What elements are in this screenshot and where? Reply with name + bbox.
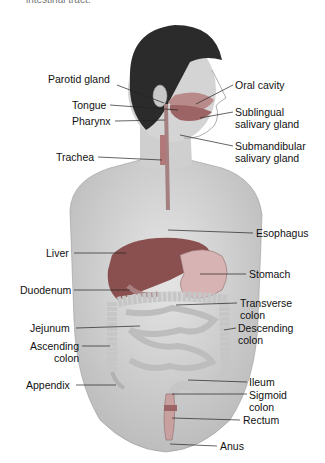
label-jejunum: Jejunum (30, 322, 70, 334)
label-sublingual: Sublingual (235, 106, 284, 118)
label-sigmoid-colon: Sigmoid (249, 389, 287, 401)
label-esophagus: Esophagus (256, 227, 309, 239)
label-appendix: Appendix (26, 379, 70, 391)
label-descending-colon: Descending (238, 322, 293, 334)
label-liver: Liver (46, 247, 69, 259)
label-sigmoid-colon-2: colon (249, 401, 274, 413)
label-stomach: Stomach (249, 268, 290, 280)
label-sublingual-2: salivary gland (235, 118, 299, 130)
label-ascending-colon-2: colon (54, 352, 79, 364)
label-anus: Anus (220, 440, 244, 452)
label-ileum: Ileum (249, 376, 275, 388)
digestive-system-diagram: intestinal tract. (0, 0, 325, 463)
label-pharynx: Pharynx (72, 115, 111, 127)
label-trachea: Trachea (56, 151, 94, 163)
label-parotid-gland: Parotid gland (48, 73, 110, 85)
label-ascending-colon: Ascending (30, 340, 79, 352)
label-submandibular: Submandibular (235, 140, 306, 152)
label-tongue: Tongue (72, 99, 106, 111)
label-rectum: Rectum (243, 414, 279, 426)
label-submandibular-2: salivary gland (235, 152, 299, 164)
label-transverse-colon: Transverse (240, 297, 292, 309)
label-descending-colon-2: colon (238, 334, 263, 346)
label-duodenum: Duodenum (20, 284, 71, 296)
label-transverse-colon-2: colon (240, 309, 265, 321)
label-oral-cavity: Oral cavity (235, 79, 285, 91)
